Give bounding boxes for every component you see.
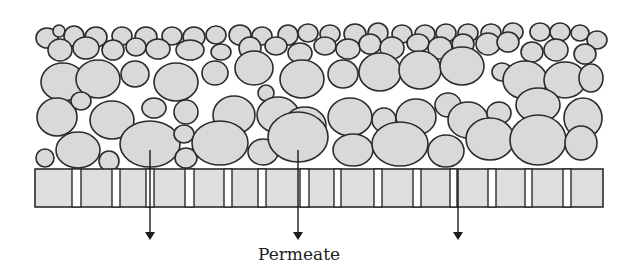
particle [174, 125, 194, 143]
particle [579, 64, 603, 92]
membrane-pore [563, 169, 571, 207]
particle [73, 37, 99, 59]
particle [544, 39, 568, 61]
membrane-pore [413, 169, 421, 207]
particle [399, 51, 441, 89]
particle [202, 61, 228, 85]
particle [121, 61, 149, 87]
particle [280, 60, 324, 98]
particle [235, 51, 273, 85]
particle [510, 115, 566, 165]
particle [466, 118, 514, 160]
particle [336, 39, 360, 59]
particle [102, 40, 124, 60]
membrane-pore [258, 169, 266, 207]
membrane-pore [72, 169, 81, 207]
particle [154, 63, 198, 101]
particle [565, 126, 597, 160]
membrane-pore [334, 169, 341, 207]
particle [174, 100, 198, 124]
filter-cake-diagram [0, 0, 636, 275]
membrane [35, 169, 603, 207]
particle [36, 149, 54, 167]
particle [521, 42, 543, 62]
particle [206, 26, 226, 44]
particle [530, 23, 550, 41]
particle [99, 151, 119, 171]
particle [550, 23, 570, 41]
particle [56, 132, 100, 168]
membrane-pore [112, 169, 120, 207]
particle [497, 32, 519, 52]
membrane-pore [525, 169, 532, 207]
particle [176, 40, 204, 60]
particle [126, 38, 146, 56]
particle [265, 37, 287, 55]
particle [428, 135, 464, 167]
membrane-pore [300, 169, 309, 207]
membrane-pore [450, 169, 457, 207]
particle [407, 34, 429, 52]
particle [211, 44, 231, 60]
particle [328, 60, 358, 88]
membrane-pore [224, 169, 232, 207]
particle [359, 53, 401, 91]
particle [142, 98, 166, 118]
particle [372, 122, 428, 166]
particle [359, 34, 381, 54]
cake-particles [36, 23, 607, 171]
particle [440, 47, 484, 85]
particle [53, 25, 65, 37]
particle [333, 134, 373, 166]
membrane-pore [488, 169, 496, 207]
particle [574, 44, 596, 64]
particle [71, 92, 91, 110]
membrane-pore [185, 169, 194, 207]
particle [298, 24, 318, 42]
particle [192, 121, 248, 165]
particle [314, 37, 336, 55]
particle [146, 39, 170, 59]
particle [328, 98, 372, 136]
permeate-label: Permeate [258, 244, 340, 264]
membrane-pore [374, 169, 382, 207]
particle [48, 39, 72, 61]
